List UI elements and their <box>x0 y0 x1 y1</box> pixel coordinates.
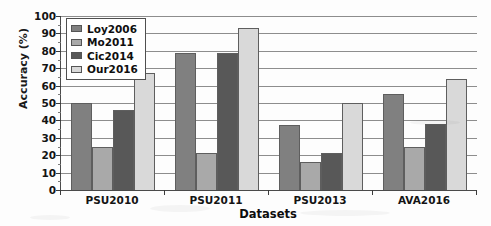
legend-label: Loy2006 <box>87 24 137 35</box>
y-axis-minor-tickmark <box>58 42 61 43</box>
y-axis-tick-label: 80 <box>18 45 56 57</box>
bar <box>321 153 342 190</box>
y-axis-tick-label: 10 <box>18 167 56 179</box>
legend-label: Mo2011 <box>87 37 134 48</box>
bar <box>175 53 196 190</box>
y-axis-minor-tickmark <box>58 60 61 61</box>
bar <box>113 110 134 190</box>
y-axis-tick-labels: 0102030405060708090100 <box>18 10 56 192</box>
legend-item: Loy2006 <box>71 22 138 36</box>
legend-swatch-icon <box>71 52 82 59</box>
y-axis-tickmark <box>56 86 61 87</box>
y-axis-minor-tickmark <box>58 112 61 113</box>
bar <box>383 94 404 190</box>
bar <box>404 147 425 191</box>
bar <box>217 53 238 190</box>
y-axis-tickmark <box>56 120 61 121</box>
legend-label: Our2016 <box>87 64 138 75</box>
bar <box>71 103 92 190</box>
legend-item: Cic2014 <box>71 49 138 63</box>
y-axis-minor-tickmark <box>58 94 61 95</box>
legend: Loy2006Mo2011Cic2014Our2016 <box>66 18 146 80</box>
y-axis-minor-tickmark <box>58 181 61 182</box>
y-axis-tickmark <box>56 51 61 52</box>
y-axis-tickmark <box>56 155 61 156</box>
y-axis-minor-tickmark <box>58 25 61 26</box>
y-axis-tick-label: 40 <box>18 114 56 126</box>
bar <box>342 103 363 190</box>
y-axis-tick-label: 0 <box>18 184 56 196</box>
x-axis-tickmark <box>476 190 477 195</box>
bar <box>134 73 155 190</box>
y-axis-tick-label: 30 <box>18 132 56 144</box>
bar <box>446 79 467 190</box>
bar <box>238 28 259 190</box>
y-axis-tick-label: 20 <box>18 149 56 161</box>
y-axis-tickmark <box>56 103 61 104</box>
bar-group <box>165 16 269 190</box>
y-axis-tick-label: 70 <box>18 62 56 74</box>
y-axis-tickmark <box>56 173 61 174</box>
y-axis-tick-label: 50 <box>18 97 56 109</box>
legend-item: Our2016 <box>71 63 138 77</box>
bar <box>279 125 300 190</box>
y-axis-tickmark <box>56 33 61 34</box>
x-axis-title: Datasets <box>60 207 476 221</box>
bar <box>92 147 113 191</box>
legend-swatch-icon <box>71 66 82 73</box>
bar <box>196 153 217 190</box>
y-axis-tickmark <box>56 68 61 69</box>
bar-chart: Accuracy (%) 0102030405060708090100 PSU2… <box>0 0 491 226</box>
y-axis-minor-tickmark <box>58 77 61 78</box>
bar <box>425 124 446 190</box>
y-axis-tick-label: 90 <box>18 27 56 39</box>
y-axis-tickmark <box>56 16 61 17</box>
y-axis-tick-label: 60 <box>18 80 56 92</box>
y-axis-tickmark <box>56 138 61 139</box>
y-axis-minor-tickmark <box>58 147 61 148</box>
legend-swatch-icon <box>71 39 82 46</box>
y-axis-tick-label: 100 <box>18 10 56 22</box>
legend-swatch-icon <box>71 25 82 32</box>
y-axis-minor-tickmark <box>58 129 61 130</box>
bar <box>300 162 321 190</box>
bar-group <box>373 16 477 190</box>
legend-item: Mo2011 <box>71 36 138 50</box>
legend-label: Cic2014 <box>87 51 134 62</box>
bar-group <box>269 16 373 190</box>
y-axis-minor-tickmark <box>58 164 61 165</box>
